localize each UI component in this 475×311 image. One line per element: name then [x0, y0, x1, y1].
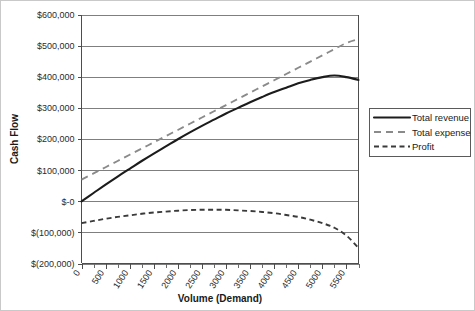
data-series — [82, 39, 359, 248]
x-tick-label: 2000 — [159, 268, 178, 290]
legend-label: Profit — [412, 141, 435, 152]
chart-canvas: $600,000$500,000$400,000$300,000$200,000… — [1, 1, 475, 311]
chart-legend: Total revenueTotal expenseProfit — [370, 109, 471, 157]
x-tick-label: 4000 — [256, 268, 275, 290]
series-line-total-expense — [82, 39, 359, 179]
y-tick-label: $300,000 — [37, 103, 75, 113]
gridlines — [82, 16, 359, 265]
y-tick-label: $(200,000) — [31, 259, 75, 269]
legend-label: Total expense — [412, 127, 471, 138]
x-axis-tick-labels: 0500100015002000250030003500400045005000… — [71, 268, 347, 290]
x-tick-label: 3500 — [231, 268, 250, 290]
y-tick-label: $100,000 — [37, 166, 75, 176]
axis-ticks — [78, 16, 360, 269]
y-tick-label: $500,000 — [37, 41, 75, 51]
x-tick-label: 5000 — [304, 268, 323, 290]
y-tick-label: $600,000 — [37, 10, 75, 20]
x-tick-label: 500 — [90, 268, 107, 286]
y-axis-title: Cash Flow — [9, 114, 20, 164]
legend-label: Total revenue — [412, 112, 469, 123]
y-axis-tick-labels: $600,000$500,000$400,000$300,000$200,000… — [31, 10, 75, 269]
y-tick-label: $400,000 — [37, 72, 75, 82]
x-tick-label: 1000 — [111, 268, 130, 290]
y-tick-label: $(100,000) — [31, 228, 75, 238]
y-tick-label: $200,000 — [37, 134, 75, 144]
x-tick-label: 3000 — [207, 268, 226, 290]
x-tick-label: 2500 — [183, 268, 202, 290]
y-tick-label: $-0 — [61, 197, 74, 207]
x-tick-label: 5500 — [328, 268, 347, 290]
series-line-profit — [82, 210, 359, 248]
x-axis-title: Volume (Demand) — [178, 293, 262, 304]
series-line-total-revenue — [82, 76, 359, 202]
chart-container: $600,000$500,000$400,000$300,000$200,000… — [0, 0, 475, 311]
x-tick-label: 0 — [71, 268, 82, 278]
x-tick-label: 1500 — [135, 268, 154, 290]
x-tick-label: 4500 — [280, 268, 299, 290]
